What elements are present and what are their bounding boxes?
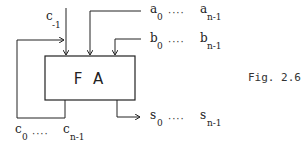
svg-text:····: ···· xyxy=(32,128,49,139)
svg-text:n-1: n-1 xyxy=(207,41,222,51)
svg-text:c: c xyxy=(63,122,70,136)
svg-text:0: 0 xyxy=(22,132,28,142)
svg-text:s: s xyxy=(200,108,206,122)
svg-text:0: 0 xyxy=(157,12,163,22)
svg-text:n-1: n-1 xyxy=(207,118,222,128)
svg-text:n-1: n-1 xyxy=(70,132,85,142)
svg-text:····: ···· xyxy=(168,7,185,18)
figure-caption: Fig. 2.6 xyxy=(248,71,301,84)
b-input-line xyxy=(115,39,141,55)
svg-text:····: ···· xyxy=(168,113,185,124)
svg-text:c: c xyxy=(15,122,22,136)
svg-text:····: ···· xyxy=(168,36,185,47)
svg-text:s: s xyxy=(150,108,156,122)
svg-text:0: 0 xyxy=(157,118,163,128)
svg-text:0: 0 xyxy=(157,41,163,51)
b-bus-label: b 0 ···· b n-1 xyxy=(150,31,222,51)
full-adder-diagram: F A c -1 a 0 ···· a n-1 b 0 ···· b n-1 c… xyxy=(0,0,306,145)
sum-output-line xyxy=(117,100,140,117)
a-bus-label: a 0 ···· a n-1 xyxy=(150,2,222,22)
svg-text:-1: -1 xyxy=(52,20,61,30)
carry-bus-label: c 0 ···· c n-1 xyxy=(15,122,85,142)
carry-feedback-line xyxy=(17,40,65,118)
sum-bus-label: s 0 ···· s n-1 xyxy=(150,108,222,128)
svg-text:n-1: n-1 xyxy=(207,12,222,22)
fa-block-label: F A xyxy=(74,70,107,88)
carry-in-label: c -1 xyxy=(46,9,61,30)
